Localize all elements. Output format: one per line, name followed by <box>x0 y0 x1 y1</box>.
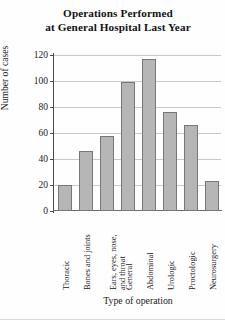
bar <box>163 112 177 211</box>
x-tick-label-line: Neurosurgery <box>209 244 218 290</box>
x-axis-category-labels: ThoracicBones and jointsEars, eyes, nose… <box>53 214 223 292</box>
gridline <box>53 81 221 82</box>
x-tick-label-line: Ears, eyes, nose, <box>109 234 118 290</box>
bar <box>79 151 93 211</box>
y-tick-label: 20 <box>39 180 49 190</box>
x-tick-label-line: Abdominal <box>146 252 155 290</box>
gridline <box>53 55 221 56</box>
y-tick-mark <box>50 81 54 82</box>
y-tick-label: 120 <box>34 50 48 60</box>
x-tick-label: Abdominal <box>146 252 155 290</box>
y-tick-mark <box>50 55 54 56</box>
x-tick-label-line: Thoracic <box>62 260 71 290</box>
y-tick-label: 100 <box>34 76 48 86</box>
chart-title-line-2: at General Hospital Last Year <box>18 21 218 35</box>
chart-title: Operations Performed at General Hospital… <box>18 7 218 34</box>
x-tick-label: Urologic <box>167 260 176 290</box>
bar <box>205 181 219 211</box>
bar <box>142 59 156 211</box>
y-tick-label: 0 <box>43 206 48 216</box>
x-tick-label-line: Bones and joints <box>83 234 92 290</box>
x-tick-label-line: Urologic <box>167 260 176 290</box>
y-tick-label: 80 <box>39 102 49 112</box>
x-tick-label-line: General <box>125 263 134 290</box>
bar <box>184 125 198 211</box>
y-tick-label: 60 <box>39 128 49 138</box>
y-axis-title: Number of cases <box>0 46 10 110</box>
y-tick-mark <box>50 185 54 186</box>
x-tick-label: Neurosurgery <box>209 244 218 290</box>
bar <box>58 185 72 211</box>
y-tick-label: 40 <box>39 154 49 164</box>
bar <box>121 82 135 211</box>
chart-figure: Operations Performed at General Hospital… <box>0 0 225 320</box>
bar <box>100 136 114 211</box>
y-tick-mark <box>50 133 54 134</box>
plot-area: 020406080100120 <box>53 55 221 211</box>
x-tick-label-line: Proctologic <box>188 251 197 290</box>
x-tick-label: General <box>125 263 134 290</box>
x-tick-label: Bones and joints <box>83 234 92 290</box>
chart-title-line-1: Operations Performed <box>18 7 218 21</box>
x-tick-label: Thoracic <box>62 260 71 290</box>
gridline <box>53 107 221 108</box>
y-tick-mark <box>50 107 54 108</box>
y-tick-mark <box>50 211 54 212</box>
x-axis-title: Type of operation <box>53 295 223 306</box>
y-tick-mark <box>50 159 54 160</box>
x-tick-label: Proctologic <box>188 251 197 290</box>
